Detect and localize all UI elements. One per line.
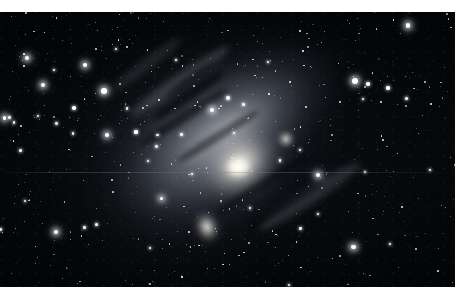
star — [386, 170, 387, 171]
star — [120, 44, 121, 45]
star — [275, 121, 276, 122]
bright-star — [53, 69, 56, 72]
star — [144, 121, 145, 122]
star — [372, 72, 374, 74]
star — [223, 210, 224, 211]
star — [237, 85, 238, 86]
star — [15, 196, 16, 197]
star — [171, 163, 173, 165]
star — [182, 13, 183, 14]
star — [91, 156, 93, 158]
star — [11, 16, 12, 17]
star — [41, 83, 45, 87]
star — [362, 148, 363, 149]
bright-star — [226, 96, 230, 100]
star — [445, 118, 446, 119]
star — [157, 233, 158, 234]
star — [81, 230, 82, 231]
star — [125, 280, 126, 281]
star — [227, 143, 228, 144]
star — [188, 174, 190, 176]
star — [262, 43, 263, 44]
star — [101, 50, 102, 51]
star — [348, 61, 349, 62]
star — [60, 78, 61, 79]
star — [215, 228, 217, 230]
star — [177, 231, 178, 232]
star — [252, 94, 253, 95]
star — [296, 213, 297, 214]
star — [239, 160, 241, 162]
star — [249, 140, 250, 141]
star — [390, 176, 391, 177]
star — [289, 81, 291, 83]
star — [263, 28, 264, 29]
star — [417, 89, 418, 90]
star — [387, 76, 388, 77]
star — [245, 65, 246, 66]
star — [112, 137, 113, 138]
star — [105, 133, 109, 137]
star — [168, 274, 169, 275]
star — [136, 186, 137, 187]
star — [152, 218, 153, 219]
star — [166, 207, 167, 208]
star — [23, 65, 25, 67]
star — [176, 177, 177, 178]
star — [54, 240, 55, 241]
star — [135, 35, 136, 36]
star — [181, 276, 183, 278]
star — [54, 61, 55, 62]
star — [275, 70, 277, 72]
star — [33, 58, 34, 59]
star — [25, 12, 27, 14]
star — [424, 233, 425, 234]
star — [151, 65, 152, 66]
star — [248, 117, 249, 118]
star — [326, 173, 327, 174]
star — [445, 207, 446, 208]
star — [135, 66, 136, 67]
star — [151, 71, 153, 73]
star — [352, 232, 353, 233]
star — [138, 17, 139, 18]
star — [257, 66, 258, 67]
star — [362, 98, 364, 100]
star — [440, 86, 441, 87]
star — [83, 63, 88, 68]
star — [115, 48, 117, 50]
star — [53, 178, 54, 179]
star — [444, 67, 445, 68]
star — [319, 85, 320, 86]
star — [417, 236, 418, 237]
star — [321, 187, 322, 188]
star — [299, 30, 301, 32]
star — [267, 242, 268, 243]
star — [147, 146, 148, 147]
star — [18, 134, 19, 135]
star — [242, 199, 244, 201]
star — [401, 206, 403, 208]
star — [66, 267, 67, 268]
star — [303, 65, 305, 67]
star — [413, 88, 415, 90]
star — [380, 80, 381, 81]
star — [193, 145, 194, 146]
star — [160, 197, 163, 200]
star-field — [0, 12, 455, 287]
star — [77, 120, 78, 121]
star — [254, 75, 256, 77]
star — [368, 210, 369, 211]
star — [392, 61, 393, 62]
star — [238, 255, 240, 257]
star — [418, 198, 419, 199]
star — [282, 260, 283, 261]
star — [24, 182, 25, 183]
star — [399, 212, 400, 213]
star — [262, 77, 263, 78]
star — [183, 206, 185, 208]
star — [15, 228, 16, 229]
star — [358, 33, 359, 34]
star — [229, 264, 231, 266]
star — [208, 212, 210, 214]
